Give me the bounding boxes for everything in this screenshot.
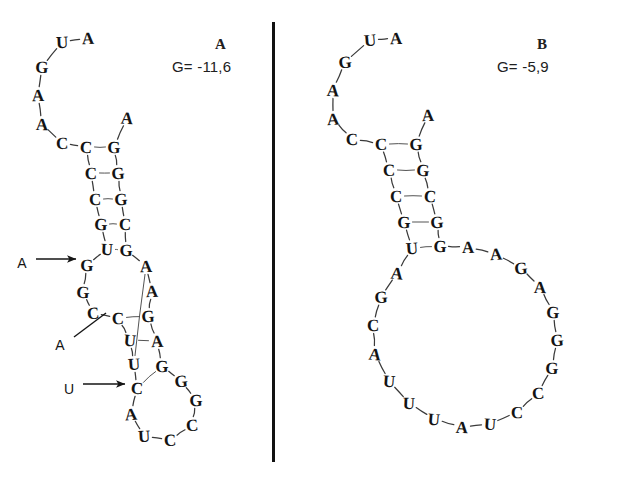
nucleotide-base: G [119,241,132,260]
nucleotide-base: U [405,239,419,259]
nucleotide-base: A [140,257,154,276]
nucleotide-base: G [80,256,93,275]
nucleotide-base: C [375,135,388,154]
nucleotide-base: A [422,106,436,125]
backbone-link [379,39,388,40]
nucleotide-base: C [55,134,68,154]
nucleotide-base: A [124,405,138,425]
nucleotide-base: U [402,394,415,413]
base-pair-bond [398,170,415,171]
base-pair-bond [421,247,432,248]
nucleotide-base: G [114,190,128,209]
backbone-link [449,246,460,247]
nucleotide-base: G [433,237,447,257]
backbone-link [395,387,404,396]
nucleotide-base: G [189,391,203,410]
backbone-link [152,437,161,438]
backbone-link [476,249,488,252]
nucleotide-base: G [141,307,155,327]
nucleotide-base: G [155,357,168,376]
nucleotide-base: G [111,164,125,184]
nucleotide-base: U [382,372,396,392]
nucleotide-base: G [416,161,431,181]
backbone-link [442,421,454,424]
backbone-link [94,254,101,259]
rna-structure-diagram: AUGAACCCCGUGGCCUUCAUCCGGGAGAAGCGGGAAUGAA… [0,0,624,486]
nucleotide-base: C [185,415,199,435]
nucleotide-base: G [545,359,559,379]
nucleotide-base: A [462,238,475,257]
nucleotide-base: C [383,161,396,180]
nucleotide-base: A [326,81,340,101]
nucleotide-base: C [86,303,100,323]
nucleotide-base: A [36,115,49,134]
nucleotide-base: U [127,355,140,375]
nucleotide-base: A [150,332,164,352]
nucleotide-base: U [427,409,441,429]
nucleotide-base: G [374,288,388,308]
backbone-link [523,399,531,407]
backbone-link [471,425,482,426]
nucleotide-base: G [35,58,49,78]
nucleotide-base: C [89,190,101,209]
arrow-annotation-a-middle-label: A [55,337,65,353]
nucleotide-base: G [514,259,529,279]
annotation-layer: AAU [17,255,125,397]
nucleotide-base: G [550,330,565,350]
nucleotide-base: C [390,187,402,206]
nucleotide-base: A [489,245,503,265]
backbone-layer [39,39,556,439]
nucleotide-base: C [346,130,359,149]
nucleotide-base: C [85,164,97,183]
nucleotide-base: A [455,418,469,438]
nucleotide-base: G [409,135,423,155]
nucleotide-base: C [423,187,437,207]
nucleotide-base: U [100,240,113,260]
nucleotide-base: A [390,29,403,48]
backbone-link [503,258,513,264]
nucleotide-base: U [363,30,377,50]
nucleotide-base: U [123,330,137,350]
nucleotide-base: A [326,110,340,130]
nucleotide-base: C [130,379,144,399]
backbone-link [351,46,363,57]
backbone-link [360,140,372,142]
nucleotide-base: U [55,33,68,53]
nucleotide-base: A [32,86,45,105]
nucleotide-base: C [119,215,132,234]
nucleotide-base: G [546,303,560,323]
backbone-link [39,75,41,86]
arrow-annotation-u-lower-label: U [64,381,74,397]
base-pair-bond [143,372,155,383]
backbone-link [177,430,185,435]
nucleotide-base: G [107,138,120,157]
nucleotide-base: A [146,282,160,301]
nucleotide-base: A [120,109,134,129]
nucleotide-base: A [534,278,547,297]
nucleotide-base: C [112,309,124,328]
nucleotide-base: U [483,415,497,435]
nucleotide-base: C [367,316,379,335]
nucleotide-base: G [430,213,445,233]
backbone-link [374,334,375,346]
base-pair-bond [127,317,140,318]
nucleotide-base: A [390,263,405,283]
backbone-link [39,103,41,115]
nucleotide-base: G [174,371,189,391]
backbone-link [416,408,427,415]
nucleotide-base: G [397,213,410,232]
arrow-annotation-a-upper-label: A [17,255,27,271]
backbone-link [498,416,509,421]
backbone-link [70,39,79,40]
backbone-link [133,255,140,260]
base-letter-layer: AUGAACCCCGUGGCCUUCAUCCGGGAGAAGCGGGAAUGAA… [32,29,565,451]
nucleotide-base: C [531,383,545,403]
nucleotide-base: C [511,403,524,422]
nucleotide-base: C [79,138,93,158]
nucleotide-base: C [163,431,176,451]
nucleotide-base: G [338,52,353,72]
nucleotide-base: G [76,283,90,303]
backbone-link [70,144,77,145]
nucleotide-base: A [82,29,96,48]
nucleotide-base: G [94,215,108,235]
